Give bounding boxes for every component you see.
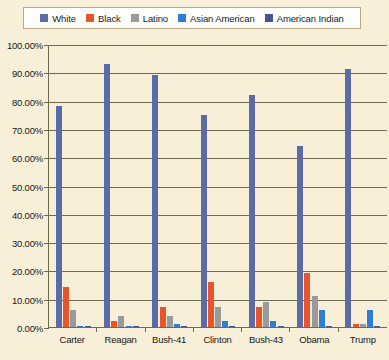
x-axis-tick-label: Trump (339, 334, 387, 354)
y-axis-labels: 100.00%90.00%80.00%70.00%60.00%50.00%40.… (0, 38, 47, 328)
x-axis-tick-label: Obama (290, 334, 338, 354)
bar[interactable] (160, 307, 166, 327)
bar[interactable] (360, 324, 366, 327)
legend-item-label: American Indian (277, 13, 344, 24)
bar[interactable] (126, 326, 132, 327)
chart-legend: WhiteBlackLatinoAsian AmericanAmerican I… (23, 7, 361, 29)
y-axis-tick-label: 10.00% (12, 294, 43, 305)
y-axis-tick-label: 70.00% (12, 124, 43, 135)
legend-swatch-icon (178, 14, 186, 22)
x-axis-labels: CarterReaganBush-41ClintonBush-43ObamaTr… (48, 334, 387, 354)
bar[interactable] (319, 310, 325, 327)
bar[interactable] (270, 321, 276, 327)
bar[interactable] (167, 316, 173, 327)
bar[interactable] (374, 326, 380, 327)
bar[interactable] (312, 296, 318, 327)
legend-item[interactable]: White (40, 13, 76, 24)
y-axis-tick-label: 0.00% (17, 323, 43, 334)
bar[interactable] (304, 273, 310, 327)
bar[interactable] (181, 326, 187, 327)
y-axis-tick-label: 30.00% (12, 238, 43, 249)
legend-item[interactable]: Asian American (178, 13, 255, 24)
legend-item[interactable]: American Indian (265, 13, 344, 24)
legend-item-label: Latino (143, 13, 168, 24)
bar-group (49, 45, 97, 327)
plot-wrapper: 100.00%90.00%80.00%70.00%60.00%50.00%40.… (0, 38, 389, 360)
bar-group (339, 45, 387, 327)
x-axis-tick-label: Carter (48, 334, 96, 354)
x-axis-tick-label: Reagan (96, 334, 144, 354)
bar[interactable] (201, 115, 207, 327)
bar[interactable] (215, 307, 221, 327)
bar[interactable] (77, 326, 83, 327)
legend-item-label: Black (98, 13, 121, 24)
bar-group (97, 45, 145, 327)
bar[interactable] (133, 326, 139, 327)
bar[interactable] (118, 316, 124, 327)
bar-group (242, 45, 290, 327)
bar[interactable] (104, 64, 110, 327)
bar[interactable] (326, 326, 332, 327)
x-axis-tick-label: Bush-43 (242, 334, 290, 354)
legend-item-label: Asian American (190, 13, 255, 24)
y-axis-tick-label: 20.00% (12, 266, 43, 277)
bar[interactable] (256, 307, 262, 327)
bar[interactable] (297, 146, 303, 327)
legend-swatch-icon (265, 14, 273, 22)
bar[interactable] (70, 310, 76, 327)
bar[interactable] (208, 282, 214, 327)
y-axis-tick-mark (44, 328, 49, 329)
y-axis-tick-label: 50.00% (12, 181, 43, 192)
legend-items: WhiteBlackLatinoAsian AmericanAmerican I… (35, 13, 349, 24)
y-axis-tick-label: 100.00% (7, 40, 43, 51)
bar[interactable] (152, 75, 158, 327)
bar-group (146, 45, 194, 327)
bar[interactable] (85, 326, 91, 327)
bar[interactable] (345, 69, 351, 327)
bar[interactable] (249, 95, 255, 327)
legend-swatch-icon (131, 14, 139, 22)
legend-swatch-icon (40, 14, 48, 22)
legend-item[interactable]: Black (86, 13, 121, 24)
bar[interactable] (56, 106, 62, 327)
bar[interactable] (278, 326, 284, 327)
y-axis-tick-label: 60.00% (12, 153, 43, 164)
bar[interactable] (229, 326, 235, 327)
bar[interactable] (353, 324, 359, 327)
bar[interactable] (263, 302, 269, 327)
x-axis-tick-label: Bush-41 (145, 334, 193, 354)
legend-swatch-icon (86, 14, 94, 22)
legend-item-label: White (52, 13, 76, 24)
bar[interactable] (367, 310, 373, 327)
bar-group (194, 45, 242, 327)
bar[interactable] (111, 321, 117, 327)
y-axis-tick-label: 80.00% (12, 96, 43, 107)
legend-item[interactable]: Latino (131, 13, 168, 24)
plot-area (48, 45, 387, 328)
bar[interactable] (222, 321, 228, 327)
bar[interactable] (63, 287, 69, 327)
bar-groups (49, 45, 387, 327)
x-axis-tick-label: Clinton (193, 334, 241, 354)
y-axis-tick-label: 90.00% (12, 68, 43, 79)
bar[interactable] (174, 324, 180, 327)
chart-root: WhiteBlackLatinoAsian AmericanAmerican I… (0, 0, 389, 360)
y-axis-tick-label: 40.00% (12, 209, 43, 220)
bar-group (290, 45, 338, 327)
